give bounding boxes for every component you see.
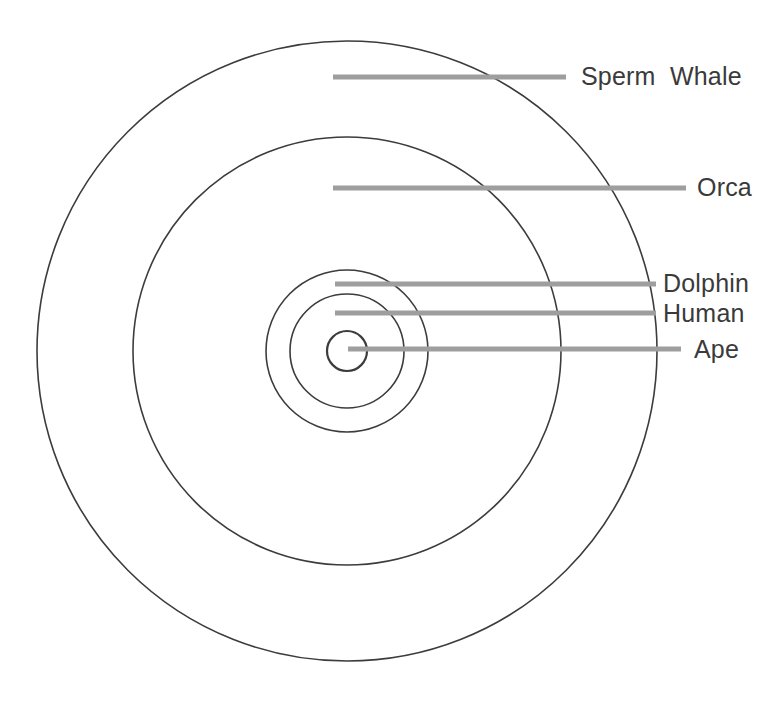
label-ape: Ape xyxy=(694,337,739,362)
label-orca: Orca xyxy=(697,175,752,200)
leader-lines-group xyxy=(333,77,686,349)
concentric-circle-diagram: Sperm WhaleOrcaDolphinHumanApe xyxy=(0,0,776,705)
label-sperm-whale: Sperm Whale xyxy=(581,64,742,89)
diagram-canvas xyxy=(0,0,776,705)
label-human: Human xyxy=(663,301,745,326)
label-dolphin: Dolphin xyxy=(663,271,749,296)
